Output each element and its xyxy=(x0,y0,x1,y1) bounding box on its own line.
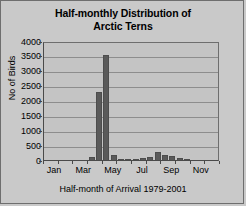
y-axis-tick-mark xyxy=(39,71,42,72)
bar xyxy=(177,158,183,160)
chart-title: Half-monthly Distribution of Arctic Tern… xyxy=(1,7,245,32)
y-axis-tick-labels: 40003500300025002000150010005000 xyxy=(5,42,41,161)
x-axis-tick-mark xyxy=(102,161,103,164)
bar xyxy=(155,152,161,160)
y-axis-tick-label: 1500 xyxy=(7,112,41,121)
x-axis-tick-label: Mar xyxy=(76,165,92,175)
x-axis-tick-mark xyxy=(146,161,147,164)
x-axis-tick-label: Jul xyxy=(136,165,148,175)
y-axis-tick-label: 0 xyxy=(7,157,41,166)
y-axis-tick-mark xyxy=(39,56,42,57)
plot-area xyxy=(43,42,219,161)
x-axis-title: Half-month of Arrival 1979-2001 xyxy=(1,184,245,194)
bar xyxy=(111,155,117,161)
y-axis-tick-label: 500 xyxy=(7,142,41,151)
x-axis-tick-mark xyxy=(204,161,205,164)
y-axis-tick-label: 2500 xyxy=(7,82,41,91)
bar xyxy=(89,157,95,160)
y-axis-tick-label: 3500 xyxy=(7,52,41,61)
y-axis-tick-mark xyxy=(39,146,42,147)
x-axis-tick-mark xyxy=(116,161,117,164)
x-axis-tick-mark xyxy=(219,161,220,164)
bar xyxy=(96,92,102,160)
x-axis-tick-mark xyxy=(131,161,132,164)
y-axis-tick-mark xyxy=(39,161,42,162)
y-axis-tick-label: 2000 xyxy=(7,97,41,106)
x-axis-tick-labels: JanMarMayJulSepNov xyxy=(43,165,219,177)
y-axis-tick-mark xyxy=(39,86,42,87)
bar-series xyxy=(44,43,218,160)
chart-title-line-1: Half-monthly Distribution of xyxy=(1,7,245,20)
x-axis-tick-mark xyxy=(58,161,59,164)
y-axis-tick-mark xyxy=(39,131,42,132)
x-axis-tick-mark xyxy=(160,161,161,164)
bar xyxy=(184,159,190,160)
bar xyxy=(118,159,124,160)
bar xyxy=(140,158,146,160)
y-axis-tick-label: 3000 xyxy=(7,67,41,76)
y-axis-tick-label: 1000 xyxy=(7,127,41,136)
x-axis-tick-label: Jan xyxy=(47,165,62,175)
chart-title-line-2: Arctic Terns xyxy=(1,20,245,33)
bar xyxy=(103,55,109,160)
bar xyxy=(147,157,153,160)
bar xyxy=(125,159,131,160)
bar xyxy=(162,155,168,160)
x-axis-tick-mark xyxy=(190,161,191,164)
y-axis-tick-mark xyxy=(39,42,42,43)
y-axis-tick-mark xyxy=(39,116,42,117)
bar xyxy=(169,156,175,160)
x-axis-tick-mark xyxy=(43,161,44,164)
x-axis-tick-mark xyxy=(72,161,73,164)
x-axis-tick-mark xyxy=(87,161,88,164)
y-axis-tick-mark xyxy=(39,101,42,102)
x-axis-tick-label: Sep xyxy=(163,165,179,175)
x-axis-tick-label: Nov xyxy=(193,165,209,175)
chart-figure: Half-monthly Distribution of Arctic Tern… xyxy=(0,0,244,204)
x-axis-tick-mark xyxy=(175,161,176,164)
y-axis-tick-label: 4000 xyxy=(7,38,41,47)
bar xyxy=(133,159,139,160)
x-axis-tick-label: May xyxy=(104,165,121,175)
